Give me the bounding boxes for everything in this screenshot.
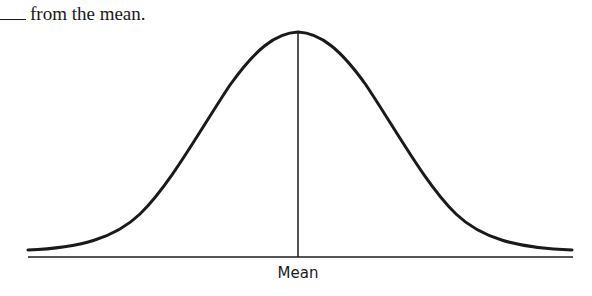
normal-curve-diagram — [0, 0, 592, 296]
mean-label: Mean — [248, 264, 348, 282]
bell-curve — [28, 32, 572, 250]
